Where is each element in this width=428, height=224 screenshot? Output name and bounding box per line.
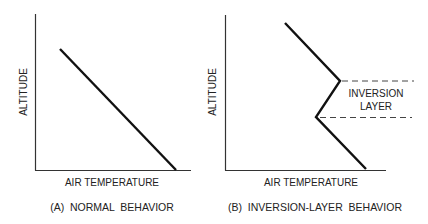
panel-a-y-axis-label: ALTITUDE <box>18 68 29 116</box>
panel-a-temperature-profile-line <box>60 49 176 170</box>
panel-a-caption: (A) NORMAL BEHAVIOR <box>50 201 174 213</box>
panel-b-y-axis-label: ALTITUDE <box>207 68 218 116</box>
diagram-canvas: ALTITUDE AIR TEMPERATURE (A) NORMAL BEHA… <box>0 0 428 224</box>
inversion-layer-label-line2: LAYER <box>360 101 392 112</box>
panel-b-x-axis-label: AIR TEMPERATURE <box>264 177 358 188</box>
panel-a-x-axis-label: AIR TEMPERATURE <box>65 177 159 188</box>
panel-b-caption: (B) INVERSION-LAYER BEHAVIOR <box>228 201 402 213</box>
inversion-layer-label-line1: INVERSION <box>348 88 403 99</box>
panel-b-inversion-layer-behavior: INVERSION LAYER ALTITUDE AIR TEMPERATURE… <box>207 15 414 213</box>
panel-a-normal-behavior: ALTITUDE AIR TEMPERATURE (A) NORMAL BEHA… <box>18 14 191 213</box>
